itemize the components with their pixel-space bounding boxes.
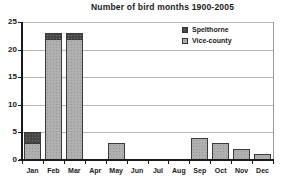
y-tick-label: 25 [2,18,17,26]
x-tick-label: Jun [127,167,148,174]
bar-segment-spelthorne-feb [45,33,62,40]
bar-segment-spelthorne-jan [24,132,41,144]
bird-months-bar-chart: Number of bird months 1900-2005 Spelthor… [0,0,285,181]
x-axis-tick [189,161,190,164]
x-axis-tick [273,161,274,164]
bar-segment-vice-county-feb [45,39,62,161]
chart-title: Number of bird months 1900-2005 [40,2,285,12]
y-tick-label: 20 [2,46,17,54]
legend-label: Vice-county [192,37,232,44]
x-axis-tick [106,161,107,164]
x-axis-tick [231,161,232,164]
x-axis-tick [22,161,23,164]
x-tick-label: Oct [210,167,231,174]
x-tick-label: May [106,167,127,174]
x-axis-tick [127,161,128,164]
x-tick-label: Jul [148,167,169,174]
x-axis-tick [252,161,253,164]
bar-segment-vice-county-sep [191,138,208,161]
x-axis-tick [64,161,65,164]
x-tick-label: Mar [64,167,85,174]
y-axis-line [21,22,23,161]
bar-segment-spelthorne-mar [66,33,83,40]
y-tick-label: 15 [2,73,17,81]
x-axis-line [19,159,274,161]
y-tick-label: 0 [2,156,17,164]
legend-label: Spelthorne [192,26,229,33]
x-axis-tick [148,161,149,164]
x-tick-label: Feb [43,167,64,174]
x-tick-label: Aug [168,167,189,174]
spelthorne-swatch-icon [182,27,188,33]
x-tick-label: Nov [231,167,252,174]
x-tick-label: Jan [22,167,43,174]
y-tick-label: 5 [2,128,17,136]
x-axis-tick [210,161,211,164]
legend-item-spelthorne: Spelthorne [182,26,232,33]
chart-legend: Spelthorne Vice-county [182,26,232,48]
x-axis-tick [168,161,169,164]
bar-segment-vice-county-mar [66,39,83,161]
legend-item-vice-county: Vice-county [182,37,232,44]
vice-county-swatch-icon [182,38,188,44]
gridline [22,22,273,23]
x-tick-label: Dec [252,167,273,174]
x-axis-tick [85,161,86,164]
x-tick-label: Apr [85,167,106,174]
x-tick-label: Sep [189,167,210,174]
y-tick-label: 10 [2,101,17,109]
plot-border-right [273,22,274,160]
x-axis-tick [43,161,44,164]
